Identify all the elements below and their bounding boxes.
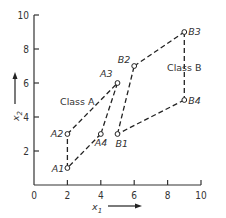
point-a1 (65, 166, 70, 171)
x-tick-label: 2 (65, 190, 71, 201)
point-label-b3: B3 (188, 26, 201, 37)
y-tick-label: 6 (23, 78, 29, 89)
x-tick-label: 6 (131, 190, 137, 201)
x-tick-label: 8 (165, 190, 171, 201)
x-axis-arrow-icon (108, 204, 142, 209)
point-a3 (115, 81, 120, 86)
edge-B1-B2 (118, 66, 135, 134)
point-label-a4: A4 (94, 137, 108, 148)
point-a2 (65, 132, 70, 137)
y-tick-label: 10 (18, 10, 30, 21)
point-label-a2: A2 (50, 128, 64, 139)
point-a4 (98, 132, 103, 137)
y-axis-arrow-icon (13, 72, 18, 104)
point-label-a3: A3 (99, 68, 113, 79)
class-boundary-diagram: 0246810246810 A1A2A3A4B1B2B3B4 Class A C… (0, 0, 226, 218)
point-b3 (182, 30, 187, 35)
point-b2 (132, 64, 137, 69)
point-b1 (115, 132, 120, 137)
x-tick-label: 0 (31, 190, 37, 201)
edge-B2-B3 (134, 32, 184, 66)
x-axis-label: x1 (91, 201, 102, 215)
x-tick-label: 4 (98, 190, 104, 201)
x-tick-label: 10 (195, 190, 207, 201)
edge-A2-A3 (67, 83, 117, 134)
point-label-b4: B4 (188, 95, 201, 106)
point-label-b1: B1 (116, 138, 129, 149)
axes: 0246810246810 (18, 10, 207, 201)
class-a-label: Class A (60, 96, 95, 107)
point-label-b2: B2 (118, 54, 131, 65)
y-tick-label: 2 (23, 146, 29, 157)
class-b-label: Class B (167, 62, 202, 73)
y-tick-label: 8 (23, 44, 29, 55)
y-tick-label: 4 (23, 112, 29, 123)
point-label-a1: A1 (51, 163, 65, 174)
point-b4 (182, 98, 187, 103)
y-axis-label: x2 (10, 110, 24, 122)
edge-B4-B1 (118, 100, 185, 134)
